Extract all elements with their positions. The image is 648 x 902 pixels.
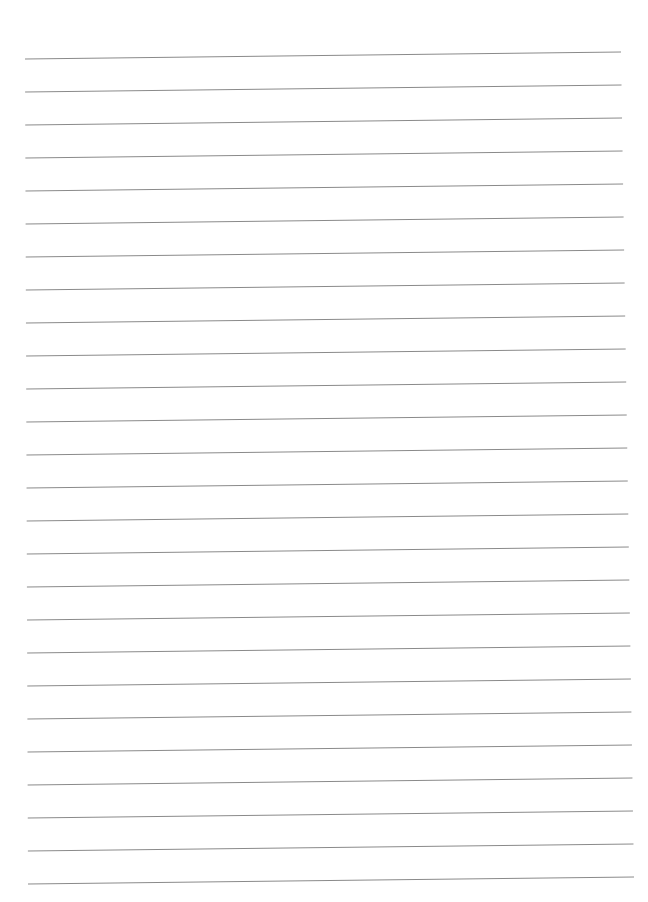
ruled-line <box>27 547 629 554</box>
ruled-line <box>26 415 626 422</box>
ruled-line <box>28 778 633 785</box>
ruled-line <box>25 85 621 92</box>
ruled-line <box>27 580 629 587</box>
lined-paper-page <box>0 0 648 902</box>
ruled-line <box>26 349 626 356</box>
ruled-line <box>27 646 630 653</box>
ruled-line <box>27 679 631 686</box>
ruled-line <box>26 250 624 257</box>
ruled-line <box>28 811 633 818</box>
ruled-line <box>26 283 625 290</box>
ruled-line <box>26 382 626 389</box>
ruled-line <box>26 316 625 323</box>
ruled-lines <box>0 0 648 902</box>
ruled-line <box>25 118 622 125</box>
ruled-line <box>28 745 632 752</box>
ruled-line <box>28 877 634 884</box>
ruled-line <box>27 481 628 488</box>
ruled-line <box>26 448 627 455</box>
ruled-line <box>28 844 634 851</box>
ruled-line <box>25 184 623 191</box>
ruled-line <box>25 52 621 59</box>
ruled-line <box>27 712 631 719</box>
ruled-line <box>27 514 629 521</box>
ruled-line <box>25 151 622 158</box>
ruled-line <box>27 613 630 620</box>
ruled-line <box>26 217 624 224</box>
